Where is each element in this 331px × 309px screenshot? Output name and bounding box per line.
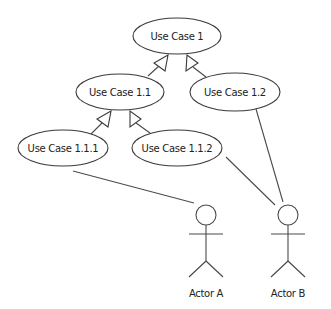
association-uc112-actorB	[226, 157, 275, 205]
actor-a-label: Actor A	[189, 288, 224, 299]
use-case-1-1-1-label: Use Case 1.1.1	[28, 143, 99, 154]
generalization-uc111-to-uc11	[91, 111, 111, 134]
association-uc12-actorB	[256, 109, 283, 202]
generalization-uc11-to-uc1	[148, 55, 168, 76]
association-uc111-actorA	[73, 171, 194, 203]
use-case-1-1-2-label: Use Case 1.1.2	[142, 143, 213, 154]
use-case-1-1-label: Use Case 1.1	[89, 87, 151, 98]
stick-figure-icon	[189, 205, 223, 277]
use-case-1-label: Use Case 1	[151, 31, 204, 42]
use-case-1[interactable]: Use Case 1	[133, 18, 221, 54]
actor-b-label: Actor B	[271, 288, 306, 299]
use-case-1-1[interactable]: Use Case 1.1	[76, 74, 164, 110]
generalization-uc12-to-uc1	[186, 55, 206, 77]
use-case-1-2-label: Use Case 1.2	[204, 87, 266, 98]
use-case-1-2[interactable]: Use Case 1.2	[190, 73, 280, 111]
actor-b[interactable]: Actor B	[271, 205, 306, 299]
actor-a[interactable]: Actor A	[189, 205, 224, 299]
use-case-1-1-2[interactable]: Use Case 1.1.2	[132, 130, 222, 166]
generalization-uc112-to-uc11	[130, 111, 150, 133]
use-case-1-1-1[interactable]: Use Case 1.1.1	[18, 130, 108, 166]
use-case-diagram: Use Case 1 Use Case 1.1 Use Case 1.2 Use…	[0, 0, 331, 309]
stick-figure-icon	[271, 205, 305, 277]
